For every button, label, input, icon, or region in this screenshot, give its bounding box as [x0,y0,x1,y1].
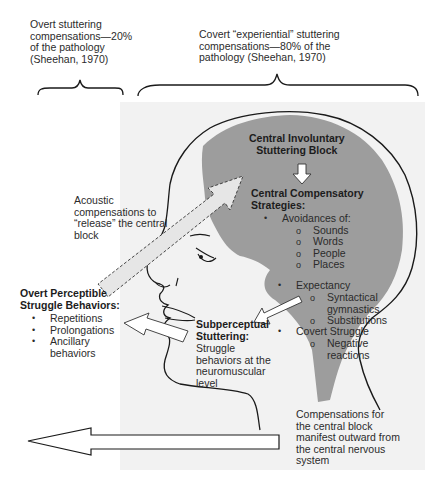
label-line: level [196,378,271,390]
list-item-text: Ancillary behaviors [50,336,102,359]
sub-item-text: Syntactical gymnastics [327,292,387,315]
label-line: system [296,455,400,467]
subperceptual-description: Struggle behaviors at the neuromuscular … [196,343,271,389]
list-item-label: Covert Struggle [296,325,369,337]
sub-item: Places [313,259,351,271]
list-item: Repetitions [50,313,114,325]
overt-brace [38,80,123,95]
strategies-list-avoidances: Avoidances of: Sounds Words People Place… [282,213,351,271]
strategies-list-covert: Covert Struggle [296,326,369,338]
label-line: Overt stuttering [30,19,132,31]
list-item: Expectancy [296,280,350,292]
title-line: Stuttering Block [249,145,345,157]
acoustic-compensations-label: Acoustic compensations to “release” the … [74,195,167,241]
pupil [199,255,203,259]
central-strategies-title: Central Compensatory Strategies: [251,188,364,211]
title-line: Overt Perceptible [20,288,120,300]
title-line: Strategies: [251,200,364,212]
label-line: Compensations for [296,409,400,421]
label-line: Covert “experiential” stuttering [199,29,340,41]
list-item: Ancillary behaviors [50,336,114,359]
overt-compensations-label: Overt stuttering compensations—20% of th… [30,19,132,65]
list-item-label: Avoidances of: [282,212,351,224]
list-item: Avoidances of: Sounds Words People Place… [282,213,351,271]
central-block-title: Central Involuntary Stuttering Block [249,133,345,156]
sub-item-text: Negative reactions [327,338,373,361]
compensations-note: Compensations for the central block mani… [296,409,400,467]
covert-brace [138,74,418,96]
overt-behaviors-title: Overt Perceptible Struggle Behaviors: [20,288,120,311]
list-item-label: Expectancy [296,279,350,291]
label-line: (Sheehan, 1970) [30,54,132,66]
diagram-canvas [0,0,437,478]
sub-item: Syntactical gymnastics [327,292,387,315]
overt-behaviors-list: Repetitions Prolongations Ancillary beha… [50,313,114,359]
title-line: Stuttering: [196,331,269,343]
title-line: Central Involuntary [249,133,345,145]
label-line: Struggle [196,343,271,355]
label-line: pathology (Sheehan, 1970) [199,52,340,64]
title-line: Central Compensatory [251,188,364,200]
title-line: Struggle Behaviors: [20,300,120,312]
sub-item: Negative reactions [327,338,373,361]
subperceptual-title: Subperceptual Stuttering: [196,319,269,342]
label-line: block [74,230,167,242]
label-line: Acoustic [74,195,167,207]
covert-compensations-label: Covert “experiential” stuttering compens… [199,29,340,64]
title-line: Subperceptual [196,319,269,331]
covert-subitems: Negative reactions [327,338,373,361]
list-item: Covert Struggle [296,326,369,338]
strategies-list-expectancy: Expectancy [296,280,350,292]
expectancy-subitems: Syntactical gymnastics [327,292,387,315]
